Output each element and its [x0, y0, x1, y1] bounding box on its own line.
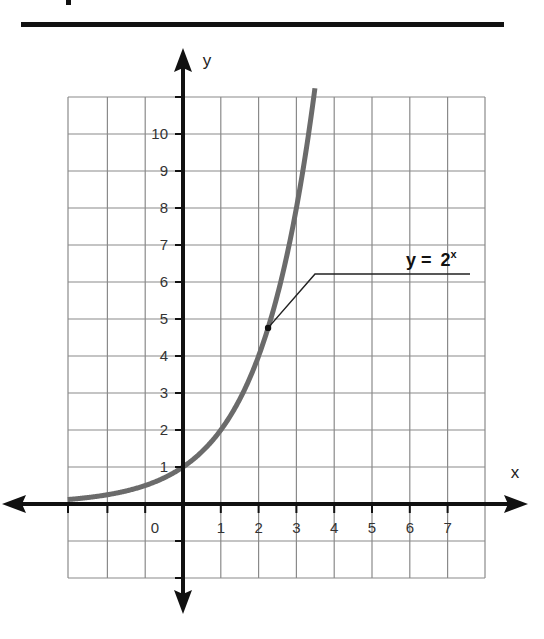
exponential-curve — [68, 88, 315, 499]
y-tick-label: 7 — [160, 236, 168, 253]
y-axis-label: y — [203, 51, 212, 70]
x-tick-label: 3 — [292, 519, 300, 536]
x-tick-label: 6 — [406, 519, 414, 536]
y-tick-label: 4 — [160, 347, 168, 364]
y-tick-label: 9 — [160, 162, 168, 179]
x-tick-label: 4 — [330, 519, 338, 536]
x-tick-label: 7 — [443, 519, 451, 536]
marked-point — [265, 325, 271, 331]
y-tick-label: 6 — [160, 273, 168, 290]
y-tick-label: 5 — [160, 310, 168, 327]
x-axis-label: x — [511, 463, 520, 482]
x-tick-label: 1 — [217, 519, 225, 536]
curve-layer — [68, 88, 315, 499]
x-tick-label: 5 — [368, 519, 376, 536]
x-tick-label: 0 — [151, 519, 159, 536]
tick-labels: 1234567891001234567xy — [151, 51, 520, 536]
y-tick-label: 8 — [160, 199, 168, 216]
x-tick-label: 2 — [254, 519, 262, 536]
y-tick-label: 3 — [160, 384, 168, 401]
equation-label: y = 2x — [406, 248, 458, 270]
y-tick-label: 10 — [151, 125, 168, 142]
exponential-graph: 1234567891001234567xy y = 2x — [0, 0, 544, 639]
y-tick-label: 1 — [160, 458, 168, 475]
y-tick-label: 2 — [160, 421, 168, 438]
